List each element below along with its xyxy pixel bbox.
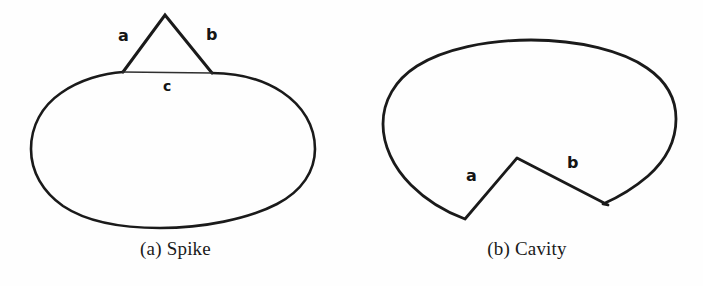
spike-label-c: c — [163, 79, 171, 93]
cavity-diagram — [351, 0, 703, 236]
spike-label-a: a — [118, 28, 129, 44]
spike-triangle-edges — [123, 15, 212, 73]
spike-body-outline — [31, 72, 315, 228]
spike-base-chord — [123, 72, 212, 73]
spike-diagram — [0, 0, 351, 236]
cavity-label-b: b — [567, 155, 578, 171]
cavity-body-outline — [383, 40, 676, 219]
spike-label-b: b — [206, 27, 217, 43]
cavity-label-a: a — [466, 168, 477, 184]
caption-spike: (a) Spike — [0, 238, 351, 260]
caption-cavity: (b) Cavity — [351, 238, 703, 260]
figure-panel-cavity: a b (b) Cavity — [351, 0, 703, 286]
figure-panel-spike: a b c (a) Spike — [0, 0, 351, 286]
figure-root: a b c (a) Spike a b (b) Cavity — [0, 0, 703, 286]
